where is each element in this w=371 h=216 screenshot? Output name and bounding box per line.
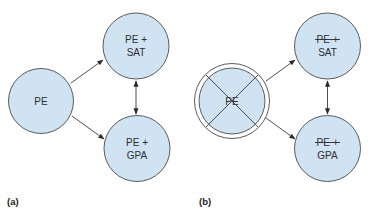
node-sat-b: PE + SAT: [295, 13, 361, 79]
node-pe-b-crossed: PE: [195, 64, 270, 139]
node-pe-a: PE: [9, 69, 74, 134]
node-pe-sat-a-circle: [103, 13, 169, 79]
node-pe-sat-a: PE + SAT: [103, 13, 169, 79]
node-pe-b-label: PE: [225, 96, 239, 107]
panel-b: PE PE + SAT PE + GPA (b): [195, 13, 361, 207]
node-sat-b-line2: SAT: [318, 47, 337, 58]
node-pe-gpa-a-line1: PE +: [126, 137, 148, 148]
node-pe-sat-a-line1: PE +: [125, 34, 147, 45]
panel-a: PE PE + SAT PE + GPA (a): [7, 13, 170, 207]
panel-a-label: (a): [7, 196, 19, 207]
edge-pe-to-sat-b: [266, 60, 295, 81]
diagram-canvas: PE PE + SAT PE + GPA (a) PE: [0, 0, 371, 216]
edge-pe-to-gpa-b: [266, 118, 295, 139]
node-sat-b-circle: [295, 13, 361, 79]
node-gpa-b-line2: GPA: [317, 150, 338, 161]
node-pe-sat-a-line2: SAT: [127, 47, 146, 58]
edge-pe-to-gpa-a: [72, 116, 104, 139]
node-pe-gpa-a: PE + GPA: [104, 116, 170, 182]
edge-pe-to-sat-a: [71, 60, 103, 83]
node-pe-a-label: PE: [34, 96, 48, 107]
node-gpa-b-circle: [295, 116, 361, 182]
node-pe-gpa-a-line2: GPA: [127, 150, 148, 161]
node-gpa-b: PE + GPA: [295, 116, 361, 182]
node-pe-gpa-a-circle: [104, 116, 170, 182]
panel-b-label: (b): [199, 196, 211, 207]
